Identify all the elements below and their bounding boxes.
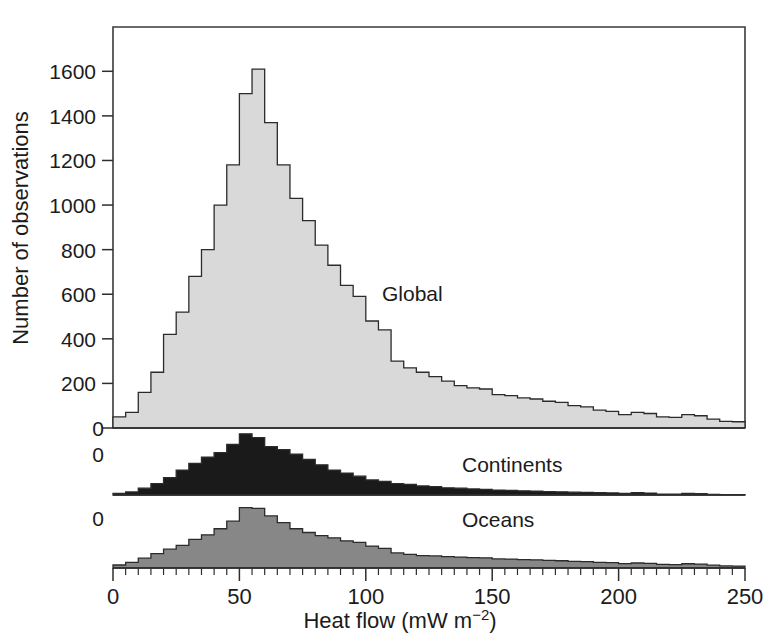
x-tick-label: 200	[600, 584, 637, 609]
x-tick-label: 0	[107, 584, 119, 609]
y-tick-label: 1200	[49, 149, 96, 172]
y-tick-label: 1000	[49, 194, 96, 217]
y-tick-label: 200	[61, 372, 96, 395]
oceans-zero-label: 0	[92, 507, 104, 530]
y-axis-title: Number of observations	[8, 111, 33, 345]
panel-label-continents: Continents	[462, 453, 562, 476]
x-tick-label: 50	[227, 584, 251, 609]
x-axis-title: Heat flow (mW m−2)	[303, 606, 496, 633]
y-tick-label: 400	[61, 328, 96, 351]
figure-background	[0, 0, 782, 642]
y-tick-label: 600	[61, 283, 96, 306]
panel-label-global: Global	[382, 282, 443, 305]
heat-flow-histogram-figure: 2004006008001000120014001600 Global 0 Co…	[0, 0, 782, 642]
panel-label-oceans: Oceans	[462, 508, 534, 531]
continents-zero-label: 0	[92, 443, 104, 466]
global-zero-label: 0	[92, 417, 104, 440]
histogram-plot: 2004006008001000120014001600 Global 0 Co…	[0, 0, 782, 642]
y-tick-label: 800	[61, 239, 96, 262]
x-tick-label: 100	[347, 584, 384, 609]
y-tick-label: 1600	[49, 60, 96, 83]
y-tick-label: 1400	[49, 105, 96, 128]
x-tick-label: 250	[727, 584, 764, 609]
